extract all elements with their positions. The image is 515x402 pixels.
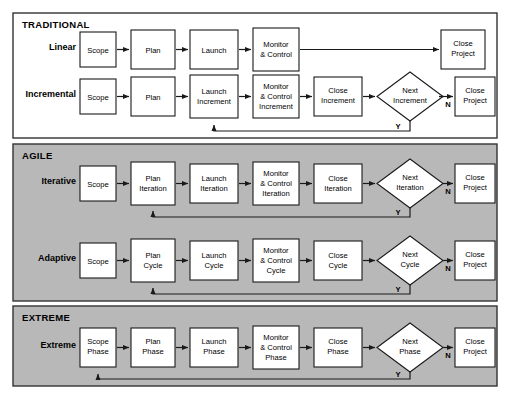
node-label: Increment [321,96,356,105]
diagram-canvas: TRADITIONAL Linear Scope Plan Launch Mon… [0,0,515,402]
node-scope[interactable]: Scope [80,166,116,201]
node-close-cycle[interactable]: Close Cycle [314,241,362,280]
node-label: & Control [260,256,292,265]
node-scope[interactable]: Scope [80,32,116,67]
node-label: Plan [145,46,160,55]
decision-label-y: Y [395,208,400,217]
node-label: Close [465,250,484,259]
node-label: Monitor [263,169,289,178]
node-label: Monitor [263,82,289,91]
node-label: Close [328,337,347,346]
node-label: Plan [145,251,160,260]
node-label: Phase [265,353,287,362]
node-label: Project [463,183,488,192]
project-lifecycle-diagram: TRADITIONAL Linear Scope Plan Launch Mon… [0,0,515,402]
node-label: Iteration [200,184,227,193]
node-label: & Control [260,92,292,101]
node-close-project[interactable]: Close Project [455,241,495,280]
node-launch-increment[interactable]: Launch Increment [190,75,238,118]
node-close-project[interactable]: Close Project [455,328,495,367]
node-label: Launch [202,251,227,260]
node-label: Next [402,173,419,182]
node-close-iteration[interactable]: Close Iteration [314,164,362,203]
node-label: & Control [260,343,292,352]
node-label: Close [465,173,484,182]
node-label: Scope [87,337,109,346]
node-label: Plan [145,93,160,102]
node-plan[interactable]: Plan [131,30,175,69]
node-close-project[interactable]: Close Project [441,30,485,69]
node-label: Phase [203,347,225,356]
section-title-extreme: EXTREME [22,312,70,323]
node-close-phase[interactable]: Close Phase [314,328,362,367]
node-label: Project [463,347,488,356]
node-label: Close [465,86,484,95]
node-label: Plan [145,174,160,183]
section-traditional: TRADITIONAL Linear Scope Plan Launch Mon… [13,13,497,138]
decision-label-n: N [445,264,450,273]
node-label: Phase [142,347,164,356]
decision-label-n: N [445,187,450,196]
node-label: Increment [197,97,232,106]
node-label: Launch [202,46,227,55]
node-monitor-control-iteration[interactable]: Monitor & Control Iteration [253,162,299,205]
row-label-extreme: Extreme [40,340,76,350]
node-launch-cycle[interactable]: Launch Cycle [190,241,238,280]
node-scope[interactable]: Scope [80,243,116,278]
node-launch-iteration[interactable]: Launch Iteration [190,164,238,203]
node-label: Scope [87,180,109,189]
node-label: Increment [259,102,294,111]
node-label: Cycle [329,261,348,270]
node-scope-phase[interactable]: Scope Phase [80,328,116,367]
node-label: Phase [399,347,421,356]
node-label: Next [402,250,419,259]
node-label: Monitor [263,333,289,342]
node-label: Project [451,49,476,58]
node-launch-phase[interactable]: Launch Phase [190,328,238,367]
node-label: Plan [145,337,160,346]
node-plan[interactable]: Plan [131,77,175,116]
decision-label-y: Y [395,122,400,131]
node-label: Next [402,337,419,346]
node-close-project[interactable]: Close Project [455,164,495,203]
node-label: Close [328,86,347,95]
node-plan-phase[interactable]: Plan Phase [131,328,175,367]
node-label: Scope [87,257,109,266]
node-plan-cycle[interactable]: Plan Cycle [131,239,175,282]
node-label: Cycle [205,261,224,270]
node-label: Iteration [262,189,289,198]
section-extreme: EXTREME Extreme Scope Phase Plan Phase L… [13,306,497,386]
node-close-increment[interactable]: Close Increment [314,77,362,116]
node-label: Cycle [401,260,420,269]
node-label: & Control [260,179,292,188]
node-label: Launch [202,337,227,346]
node-label: Project [463,96,488,105]
decision-label-n: N [445,100,450,109]
decision-label-y: Y [395,370,400,379]
node-monitor-control-phase[interactable]: Monitor & Control Phase [253,326,299,369]
node-label: Increment [393,96,428,105]
node-label: Monitor [263,40,289,49]
row-label-adaptive: Adaptive [38,253,76,263]
row-label-incremental: Incremental [25,89,76,99]
node-monitor-control-increment[interactable]: Monitor & Control Increment [253,75,299,118]
node-label: Phase [327,347,349,356]
node-monitor-control[interactable]: Monitor & Control [253,28,299,71]
node-label: & Control [260,50,292,59]
node-launch[interactable]: Launch [190,30,238,69]
node-label: Scope [87,46,109,55]
node-label: Launch [202,174,227,183]
node-label: Iteration [139,184,166,193]
node-close-project[interactable]: Close Project [455,77,495,116]
node-label: Monitor [263,246,289,255]
node-scope[interactable]: Scope [80,79,116,114]
node-label: Phase [87,347,109,356]
node-label: Project [463,260,488,269]
node-label: Scope [87,93,109,102]
section-title-traditional: TRADITIONAL [22,19,90,30]
node-monitor-control-cycle[interactable]: Monitor & Control Cycle [253,239,299,282]
row-label-iterative: Iterative [41,176,76,186]
decision-label-n: N [445,351,450,360]
decision-label-y: Y [395,285,400,294]
node-plan-iteration[interactable]: Plan Iteration [131,162,175,205]
